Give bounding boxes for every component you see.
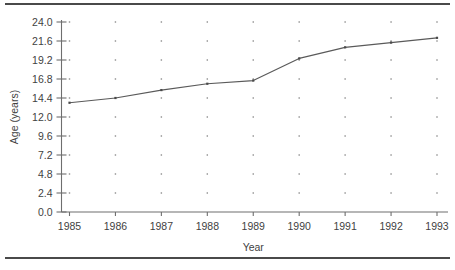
y-tick-label: 7.2 [38, 149, 53, 161]
y-tick-label: 14.4 [32, 92, 53, 104]
x-tick-label: 1986 [104, 220, 128, 232]
y-tick-label: 4.8 [38, 168, 53, 180]
y-tick-label: 16.8 [32, 73, 53, 85]
x-tick-label: 1991 [333, 220, 357, 232]
chart-plot-area: 0.02.44.87.29.612.014.416.819.221.624.0 … [0, 0, 455, 270]
y-tick-label: 24.0 [32, 16, 53, 28]
x-tick-label: 1985 [58, 220, 82, 232]
y-tick-label: 0.0 [38, 206, 53, 218]
grid-dot-matrix [69, 21, 438, 193]
x-tick-label: 1990 [288, 220, 312, 232]
x-tick-label: 1988 [196, 220, 220, 232]
x-tick-label: 1989 [242, 220, 266, 232]
y-tick-label: 2.4 [38, 187, 53, 199]
y-tick-label: 19.2 [32, 54, 53, 66]
figure-container: 0.02.44.87.29.612.014.416.819.221.624.0 … [0, 0, 455, 270]
y-tick-label: 21.6 [32, 35, 53, 47]
x-tick-label: 1992 [379, 220, 403, 232]
data-series-line [70, 38, 438, 103]
line-chart-svg: 0.02.44.87.29.612.014.416.819.221.624.0 … [0, 0, 455, 270]
x-axis-tick-labels: 198519861987198819891990199119921993 [58, 220, 449, 232]
y-axis-tick-labels: 0.02.44.87.29.612.014.416.819.221.624.0 [32, 16, 53, 218]
data-series-points [68, 37, 438, 104]
x-axis-title: Year [243, 241, 265, 253]
x-tick-label: 1993 [425, 220, 449, 232]
y-tick-label: 9.6 [38, 130, 53, 142]
y-tick-label: 12.0 [32, 111, 53, 123]
y-axis-title: Age (years) [8, 90, 20, 144]
x-axis-ticks [70, 212, 438, 216]
x-tick-label: 1987 [150, 220, 174, 232]
